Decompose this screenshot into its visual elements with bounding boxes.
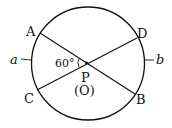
- center-label-o: (O): [74, 83, 95, 98]
- angle-label: 60°: [55, 57, 75, 70]
- arc-b-label: b: [156, 52, 164, 67]
- arc-a-tick: [21, 59, 31, 60]
- point-a-label: A: [25, 24, 36, 39]
- arc-a-label: a: [10, 52, 18, 67]
- circle-chords-diagram: A D C B a b 60° P (O): [0, 0, 172, 128]
- point-b-label: B: [136, 92, 146, 107]
- angle-arc: [78, 58, 79, 67]
- intersection-point-p: [85, 62, 88, 65]
- point-c-label: C: [24, 91, 34, 106]
- point-d-label: D: [137, 26, 147, 41]
